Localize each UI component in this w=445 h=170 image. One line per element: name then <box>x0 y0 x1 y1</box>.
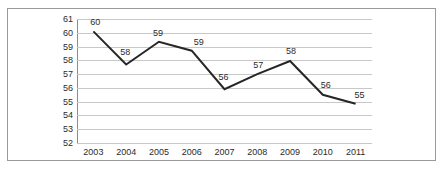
y-axis-tick-label: 52 <box>53 139 73 148</box>
y-axis-tick-label: 57 <box>53 70 73 79</box>
y-axis-tick-label: 56 <box>53 84 73 93</box>
data-point-labels: 605859595657585655 <box>77 19 372 143</box>
y-axis-tick-label: 54 <box>53 111 73 120</box>
gridline <box>77 143 372 144</box>
data-point-label: 59 <box>143 29 173 38</box>
data-point-label: 58 <box>276 47 306 56</box>
y-axis-tick-labels: 61605958575655545352 <box>52 0 73 170</box>
data-point-label: 57 <box>243 61 273 70</box>
y-axis-tick-label: 58 <box>53 56 73 65</box>
y-axis-tick-label: 53 <box>53 125 73 134</box>
y-axis-tick-label: 59 <box>53 43 73 52</box>
data-point-label: 58 <box>110 48 140 57</box>
x-axis-tick-labels: 200320042005200620072008200920102011 <box>77 147 372 161</box>
y-axis-tick-label: 55 <box>53 98 73 107</box>
y-axis-tick-label: 60 <box>53 29 73 38</box>
line-chart-figure: 61605958575655545352 605859595657585655 … <box>0 0 445 170</box>
y-axis-tick-label: 61 <box>53 15 73 24</box>
data-point-label: 60 <box>80 18 110 27</box>
x-axis-tick-label: 2011 <box>336 147 376 157</box>
data-point-label: 59 <box>184 38 214 47</box>
data-point-label: 56 <box>209 73 239 82</box>
data-point-label: 55 <box>345 91 375 100</box>
data-point-label: 56 <box>311 81 341 90</box>
